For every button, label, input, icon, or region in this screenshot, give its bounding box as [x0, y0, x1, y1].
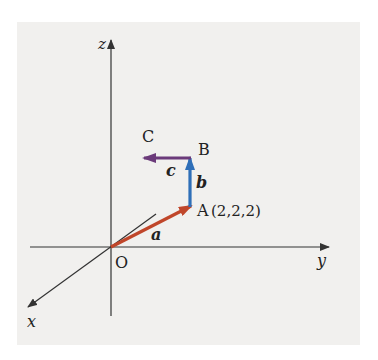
x-axis [28, 214, 156, 307]
vector-diagram: z y x O A (2,2,2) B C a b c [0, 0, 378, 360]
vector-b-label: b [196, 173, 207, 192]
vector-a-label: a [151, 225, 161, 244]
vector-c-label: c [166, 161, 176, 180]
point-a-label: A [196, 201, 209, 220]
point-c-label: C [142, 127, 154, 146]
point-a-coords: (2,2,2) [211, 202, 261, 220]
x-axis-label: x [27, 312, 36, 331]
point-b-label: B [198, 140, 210, 159]
y-axis-label: y [316, 251, 327, 270]
origin-label: O [115, 253, 128, 272]
z-axis-label: z [97, 35, 106, 53]
